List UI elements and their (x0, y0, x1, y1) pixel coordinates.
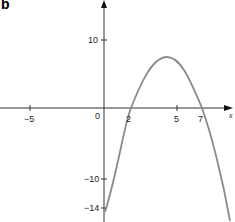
y-tick-label: −10 (84, 174, 99, 184)
x-tick-label: 0 (95, 111, 100, 121)
x-axis-label: x (228, 111, 233, 120)
y-axis-arrow-icon (101, 0, 107, 8)
x-tick-label: 5 (174, 114, 179, 124)
x-tick-label: 7 (198, 114, 203, 124)
x-tick-label: 2 (126, 114, 131, 124)
y-tick-label: −14 (84, 203, 99, 213)
parabola-curve (105, 57, 230, 221)
chart: −5 0 2 5 7 x 10 −10 −14 (0, 0, 235, 222)
x-tick-label: −5 (24, 114, 34, 124)
y-tick-label: 10 (88, 35, 98, 45)
